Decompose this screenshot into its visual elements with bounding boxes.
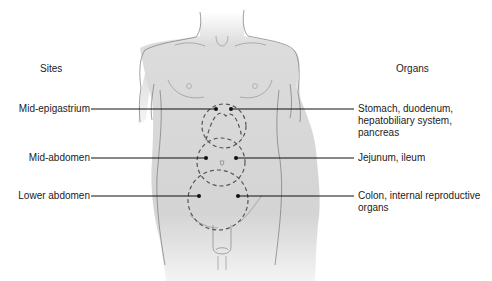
torso bbox=[140, 12, 320, 281]
organ-label-mid-abdomen: Jejunum, ileum bbox=[358, 152, 425, 164]
site-label-mid-abdomen: Mid-abdomen bbox=[29, 152, 90, 164]
abdominal-pain-sites-diagram bbox=[0, 0, 492, 281]
torso-figure bbox=[138, 10, 320, 281]
sites-heading: Sites bbox=[40, 63, 62, 75]
organs-heading: Organs bbox=[396, 63, 429, 75]
organ-label-lower-abdomen: Colon, internal reproductive organs bbox=[358, 190, 480, 214]
organ-label-epigastrium: Stomach, duodenum, hepatobiliary system,… bbox=[358, 103, 453, 139]
site-label-lower-abdomen: Lower abdomen bbox=[18, 190, 90, 202]
site-label-mid-epigastrium: Mid-epigastrium bbox=[19, 103, 90, 115]
